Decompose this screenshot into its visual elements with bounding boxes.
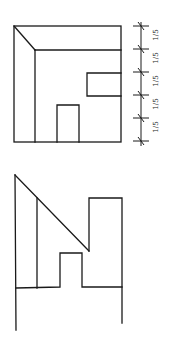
top-view <box>14 26 121 142</box>
tall-block <box>89 198 122 323</box>
left-wall <box>15 175 16 330</box>
dimension-label-1: 1/5 <box>152 29 160 40</box>
door-rect <box>57 105 79 142</box>
drawing-canvas: 1 5 <box>0 0 186 340</box>
dimension-label-4: 1/5 <box>152 98 160 109</box>
dimension-label-2: 1/5 <box>152 52 160 63</box>
bottom-view <box>15 175 122 330</box>
sloped-roof <box>15 175 89 251</box>
dimension-label-5: 1/5 <box>152 121 160 132</box>
dimension-scale: 1 5 <box>133 22 149 146</box>
corner-diagonal <box>14 26 35 50</box>
dimension-label-3: 1/5 <box>152 75 160 86</box>
window-rect <box>87 73 121 96</box>
baseline-with-notch <box>16 253 122 288</box>
